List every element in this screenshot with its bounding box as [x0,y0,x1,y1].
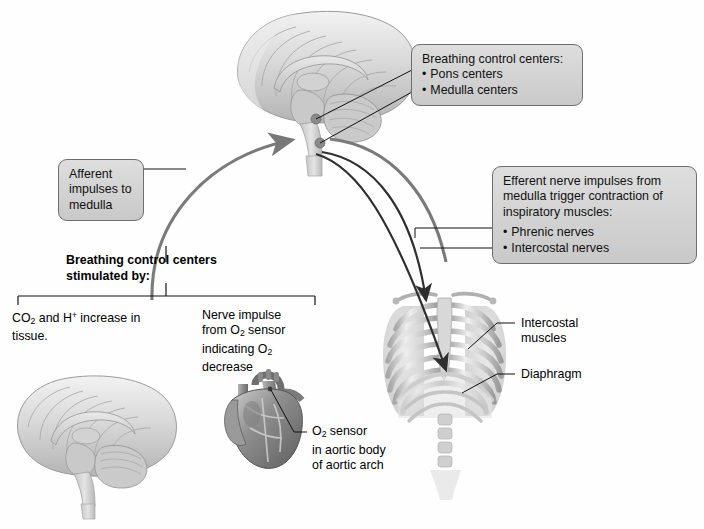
callout-breathing-control-centers[interactable]: Breathing control centers: Pons centers … [411,44,583,106]
callout-efferent-impulses[interactable]: Efferent nerve impulses from medulla tri… [492,166,697,264]
leader-phrenic [415,228,493,238]
afferent-arc-right-tail [330,139,446,262]
callout-heading: Breathing control centers: [422,52,573,67]
stimuli-heading-line2: stimulated by: [66,269,296,285]
efferent-line-2: medulla trigger contraction of [503,189,687,204]
callout-item-medulla: Medulla centers [422,83,573,98]
figure-canvas: Breathing control centers: Pons centers … [0,0,704,529]
afferent-line-3: medulla [69,198,134,213]
efferent-line-3: inspiratory muscles: [503,205,687,220]
o2-subscript-indicating: 2 [267,347,272,357]
tissue-text: tissue. [12,329,162,344]
indicating-o2-text: indicating O [202,342,267,356]
nerve-impulse-line1: Nerve impulse [202,308,322,323]
label-o2-sensor-aortic-body: O2 sensor in aortic body of aortic arch [312,424,462,473]
o2-sensor-line3: of aortic arch [312,458,462,473]
stimulus-co2-h-increase: CO2 and H+ increase in tissue. [12,308,162,344]
from-o2-text: from O [202,323,240,337]
afferent-line-2: impulses to [69,182,134,197]
decrease-text: decrease [202,360,322,375]
and-h-text: and H [35,311,72,325]
stimulus-nerve-impulse-o2: Nerve impulse from O2 sensor indicating … [202,308,322,376]
co2-label: CO [12,311,31,325]
callout-afferent-impulses[interactable]: Afferent impulses to medulla [58,159,144,221]
brain-illustration-bottom-left [17,376,176,519]
efferent-item-phrenic: Phrenic nerves [503,225,687,240]
afferent-line-1: Afferent [69,167,134,182]
heart-illustration [225,369,303,468]
o2-sensor-o: O [312,424,322,438]
efferent-item-intercostal: Intercostal nerves [503,241,687,256]
diaphragm-line1: Diaphragm [521,367,651,382]
increase-text: increase in [77,311,140,325]
intercostal-line2: muscles [521,331,651,346]
stimuli-heading: Breathing control centers stimulated by: [66,253,296,284]
sensor-text: sensor [245,323,286,337]
brain-illustration-top [238,11,417,176]
label-diaphragm: Diaphragm [521,367,651,382]
o2-sensor-word: sensor [326,424,367,438]
intercostal-line1: Intercostal [521,316,651,331]
stimuli-heading-line1: Breathing control centers [66,253,296,269]
efferent-line-1: Efferent nerve impulses from [503,174,687,189]
callout-item-pons: Pons centers [422,67,573,82]
label-intercostal-muscles: Intercostal muscles [521,316,651,346]
o2-sensor-line2: in aortic body [312,443,462,458]
